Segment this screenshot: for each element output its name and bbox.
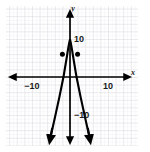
x-tick-label-10: 10 — [103, 81, 113, 91]
x-tick-label-neg10: −10 — [24, 81, 39, 91]
point-left — [60, 52, 65, 57]
grid-major — [6, 6, 138, 146]
y-tick-label-neg10: −10 — [74, 110, 89, 120]
coordinate-plane-figure: −10 10 10 −10 x y — [0, 0, 150, 152]
x-axis-name-label: x — [130, 68, 135, 77]
grid — [6, 6, 138, 146]
point-right — [75, 52, 80, 57]
y-axis-name-label: y — [70, 4, 75, 13]
y-tick-label-10: 10 — [74, 34, 84, 44]
graph-screenshot: −10 10 10 −10 x y — [0, 0, 150, 152]
